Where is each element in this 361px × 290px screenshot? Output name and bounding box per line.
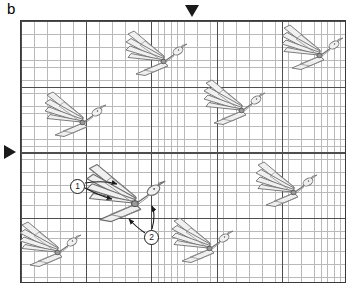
figure-panel-b: b [0, 0, 361, 290]
panel-label: b [7, 1, 15, 17]
callout-number-2: 2 [144, 230, 159, 245]
callout-number-1: 1 [70, 179, 85, 194]
top-reference-marker-icon [185, 5, 199, 17]
left-reference-marker-icon [4, 145, 16, 159]
plot-area [20, 20, 346, 283]
grid-major-lines [21, 21, 345, 282]
